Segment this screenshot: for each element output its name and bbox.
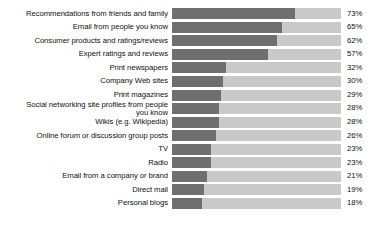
bar-value-label: 29% bbox=[341, 91, 369, 99]
chart-bar-row: TV23% bbox=[0, 142, 376, 156]
bar-track bbox=[172, 117, 341, 128]
bar-track bbox=[172, 103, 341, 114]
bar-value-label: 28% bbox=[341, 104, 369, 112]
bar-fill bbox=[172, 76, 223, 87]
chart-bar-row: Expert ratings and reviews57% bbox=[0, 48, 376, 62]
bar-fill bbox=[172, 157, 211, 168]
bar-track bbox=[172, 62, 341, 73]
bar-category-label: Company Web sites bbox=[0, 77, 172, 85]
bar-category-label: Recommendations from friends and family bbox=[0, 10, 172, 18]
bar-fill bbox=[172, 103, 219, 114]
bar-fill bbox=[172, 8, 295, 19]
chart-bar-row: Direct mail19% bbox=[0, 183, 376, 197]
bar-fill bbox=[172, 184, 204, 195]
bar-value-label: 32% bbox=[341, 64, 369, 72]
chart-bar-row: Wikis (e.g. Wikipedia)28% bbox=[0, 115, 376, 129]
bar-fill bbox=[172, 198, 202, 209]
horizontal-bar-chart: Recommendations from friends and family7… bbox=[0, 0, 376, 229]
bar-value-label: 26% bbox=[341, 132, 369, 140]
bar-value-label: 21% bbox=[341, 172, 369, 180]
bar-track bbox=[172, 171, 341, 182]
bar-category-label: Email from a company or brand bbox=[0, 172, 172, 180]
bar-category-label: Print newspapers bbox=[0, 64, 172, 72]
bar-value-label: 28% bbox=[341, 118, 369, 126]
bar-track bbox=[172, 144, 341, 155]
bar-fill bbox=[172, 171, 207, 182]
chart-bar-row: Online forum or discussion group posts26… bbox=[0, 129, 376, 143]
chart-bar-row: Social networking site profiles from peo… bbox=[0, 102, 376, 116]
bar-fill bbox=[172, 62, 226, 73]
bar-category-label: Email from people you know bbox=[0, 23, 172, 31]
bar-track bbox=[172, 76, 341, 87]
bar-track bbox=[172, 184, 341, 195]
chart-bar-row: Print newspapers32% bbox=[0, 61, 376, 75]
bar-track bbox=[172, 35, 341, 46]
bar-value-label: 73% bbox=[341, 10, 369, 18]
chart-bar-row: Email from people you know65% bbox=[0, 21, 376, 35]
chart-bar-row: Recommendations from friends and family7… bbox=[0, 7, 376, 21]
bar-value-label: 18% bbox=[341, 199, 369, 207]
bar-category-label: Social networking site profiles from peo… bbox=[0, 101, 172, 117]
bar-value-label: 62% bbox=[341, 37, 369, 45]
bar-track bbox=[172, 90, 341, 101]
bar-value-label: 23% bbox=[341, 145, 369, 153]
bar-fill bbox=[172, 35, 277, 46]
bar-value-label: 19% bbox=[341, 186, 369, 194]
chart-bar-row: Personal blogs18% bbox=[0, 197, 376, 211]
bar-fill bbox=[172, 144, 211, 155]
bar-value-label: 65% bbox=[341, 23, 369, 31]
bar-value-label: 57% bbox=[341, 50, 369, 58]
bar-fill bbox=[172, 130, 216, 141]
bar-track bbox=[172, 130, 341, 141]
bar-value-label: 30% bbox=[341, 77, 369, 85]
chart-bar-row: Email from a company or brand21% bbox=[0, 170, 376, 184]
bar-category-label: Online forum or discussion group posts bbox=[0, 132, 172, 140]
chart-bar-row: Radio23% bbox=[0, 156, 376, 170]
bar-track bbox=[172, 22, 341, 33]
chart-bar-row: Consumer products and ratings/reviews62% bbox=[0, 34, 376, 48]
bar-fill bbox=[172, 117, 219, 128]
bar-fill bbox=[172, 90, 221, 101]
chart-bar-row: Company Web sites30% bbox=[0, 75, 376, 89]
bar-category-label: Direct mail bbox=[0, 186, 172, 194]
bar-fill bbox=[172, 49, 268, 60]
bar-category-label: TV bbox=[0, 145, 172, 153]
bar-track bbox=[172, 49, 341, 60]
bar-track bbox=[172, 157, 341, 168]
bar-category-label: Wikis (e.g. Wikipedia) bbox=[0, 118, 172, 126]
bar-category-label: Print magazines bbox=[0, 91, 172, 99]
bar-track bbox=[172, 8, 341, 19]
bar-track bbox=[172, 198, 341, 209]
bar-fill bbox=[172, 22, 282, 33]
bar-value-label: 23% bbox=[341, 159, 369, 167]
bar-category-label: Consumer products and ratings/reviews bbox=[0, 37, 172, 45]
bar-category-label: Personal blogs bbox=[0, 199, 172, 207]
bar-category-label: Expert ratings and reviews bbox=[0, 50, 172, 58]
bar-category-label: Radio bbox=[0, 159, 172, 167]
